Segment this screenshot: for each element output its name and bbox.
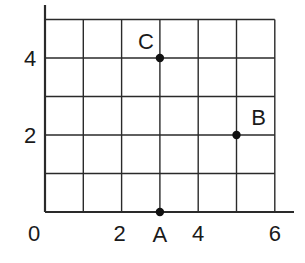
y-tick-label: 4	[24, 46, 36, 71]
x-tick-label: 6	[269, 221, 281, 246]
point-a-marker	[156, 208, 164, 216]
y-tick-label: 2	[24, 123, 36, 148]
x-tick-label: 0	[28, 221, 40, 246]
point-b-label: B	[251, 105, 266, 130]
point-c-marker	[156, 54, 164, 62]
point-a-label: A	[153, 222, 168, 247]
coordinate-grid-chart: 0246 24 ABC	[0, 0, 305, 263]
x-tick-label: 4	[192, 221, 204, 246]
point-b-marker	[232, 131, 240, 139]
x-tick-label: 2	[113, 221, 125, 246]
point-c-label: C	[138, 29, 154, 54]
y-tick-labels: 24	[24, 46, 36, 148]
grid-lines	[45, 20, 275, 213]
data-points: ABC	[138, 29, 266, 247]
